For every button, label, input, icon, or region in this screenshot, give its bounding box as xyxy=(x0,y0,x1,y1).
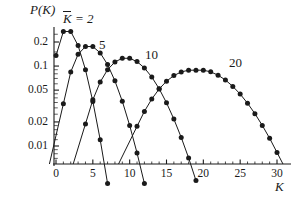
data-point xyxy=(98,137,103,142)
k-bar-overline: K xyxy=(63,12,72,25)
data-point xyxy=(98,80,103,85)
curve-annotation-mean-2: K = 2 xyxy=(63,12,93,25)
data-point xyxy=(245,101,250,106)
data-point xyxy=(171,117,176,122)
data-point xyxy=(61,101,66,106)
data-point xyxy=(186,68,191,73)
curve-annotation-mean-20: 20 xyxy=(229,56,242,69)
data-point xyxy=(230,84,235,89)
data-point xyxy=(105,67,110,72)
data-point xyxy=(267,136,272,141)
data-point xyxy=(208,69,213,74)
data-point xyxy=(164,79,169,84)
series-line-20 xyxy=(137,70,277,152)
data-point xyxy=(105,62,110,67)
x-axis-tick-label: 25 xyxy=(226,168,254,180)
data-point xyxy=(216,73,221,78)
y-axis-tick-label: 0.01 xyxy=(0,140,48,152)
x-axis-tick-label: 15 xyxy=(153,168,181,180)
data-point xyxy=(149,75,154,80)
curve-annotation-mean-10: 10 xyxy=(145,48,158,61)
y-axis-tick-label: 0.2 xyxy=(0,36,48,48)
data-point xyxy=(149,97,154,102)
data-point xyxy=(127,56,132,61)
y-axis-tick-label: 0.1 xyxy=(0,60,48,72)
data-point xyxy=(193,68,198,73)
data-point xyxy=(120,56,125,61)
data-point xyxy=(83,44,88,49)
data-point xyxy=(186,155,191,160)
data-point xyxy=(76,52,81,57)
data-point xyxy=(61,29,66,34)
curve-annotation-mean-2-text: = 2 xyxy=(72,11,94,26)
data-point xyxy=(201,68,206,73)
x-axis-tick-label: 30 xyxy=(263,168,291,180)
data-point xyxy=(76,43,81,48)
data-point xyxy=(68,29,73,34)
curve-annotation-mean-5: 5 xyxy=(99,38,106,51)
x-axis-tick-label: 20 xyxy=(189,168,217,180)
series-head-5 xyxy=(49,104,63,164)
x-axis-label: K xyxy=(275,180,284,193)
data-point xyxy=(142,109,147,114)
data-point xyxy=(252,111,257,116)
data-point xyxy=(157,87,162,92)
data-point xyxy=(260,123,265,128)
data-point xyxy=(179,135,184,140)
y-axis-label: P(K) xyxy=(30,3,55,16)
data-point xyxy=(135,150,140,155)
series-20 xyxy=(119,68,283,164)
data-point xyxy=(127,123,132,128)
poisson-distribution-chart: P(K) K K = 2 5 10 20 0.20.10.050.020.01 … xyxy=(0,0,296,202)
data-point xyxy=(135,124,140,129)
series-head-10 xyxy=(73,124,85,164)
data-point xyxy=(142,181,147,186)
data-point xyxy=(54,53,59,58)
data-point xyxy=(171,73,176,78)
y-axis-tick-label: 0.05 xyxy=(0,84,48,96)
data-point xyxy=(83,121,88,126)
data-point xyxy=(112,78,117,83)
data-point xyxy=(275,150,280,155)
x-axis-tick-label: 10 xyxy=(116,168,144,180)
data-point xyxy=(68,70,73,75)
series-head-20 xyxy=(119,126,137,164)
data-point xyxy=(135,59,140,64)
data-point xyxy=(112,59,117,64)
series-5 xyxy=(49,44,146,186)
data-point xyxy=(83,67,88,72)
data-point xyxy=(223,78,228,83)
data-point xyxy=(105,181,110,186)
x-axis-tick-label: 5 xyxy=(79,168,107,180)
data-point xyxy=(90,97,95,102)
data-point xyxy=(164,100,169,105)
data-point xyxy=(179,69,184,74)
data-point xyxy=(120,99,125,104)
x-axis-tick-label: 0 xyxy=(42,168,70,180)
data-point xyxy=(142,65,147,70)
data-point xyxy=(238,92,243,97)
y-axis-tick-label: 0.02 xyxy=(0,116,48,128)
data-point xyxy=(90,44,95,49)
